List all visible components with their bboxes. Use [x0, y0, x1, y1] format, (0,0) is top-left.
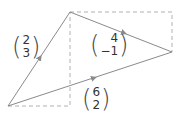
vector-b-label: ( 4 −1 )	[90, 30, 128, 60]
left-bracket: (	[90, 30, 99, 60]
vector-a-y: 3	[22, 47, 30, 60]
left-bracket: (	[12, 32, 21, 62]
vector-a-label: ( 2 3 )	[12, 32, 40, 62]
vector-c-label: ( 6 2 )	[82, 84, 110, 114]
vector-b-y: −1	[100, 45, 118, 58]
left-bracket: (	[82, 84, 91, 114]
right-bracket: )	[101, 84, 110, 114]
right-bracket: )	[31, 32, 40, 62]
vector-c-y: 2	[92, 99, 100, 112]
right-bracket: )	[119, 30, 128, 60]
